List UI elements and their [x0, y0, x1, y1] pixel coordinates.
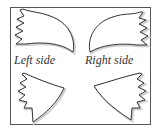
left-side-label: Left side — [14, 53, 55, 68]
right-side-label: Right side — [85, 53, 133, 68]
upper-right-wing — [89, 12, 149, 53]
lower-left-wing — [18, 73, 65, 123]
upper-left-wing — [15, 9, 75, 53]
wing-templates — [0, 0, 163, 139]
lower-right-wing — [94, 73, 147, 121]
